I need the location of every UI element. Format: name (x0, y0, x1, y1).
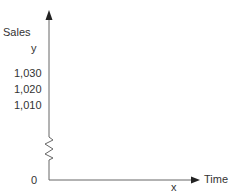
y-axis-label: Sales (3, 26, 31, 38)
origin-label: 0 (31, 174, 37, 186)
y-tick-1030: 1,030 (14, 67, 42, 79)
axis-break-icon (45, 137, 53, 160)
y-tick-1010: 1,010 (14, 99, 42, 111)
y-tick-1020: 1,020 (14, 83, 42, 95)
y-axis-symbol: y (31, 42, 37, 54)
x-axis-symbol: x (171, 181, 177, 193)
x-axis-label: Time (204, 173, 228, 185)
y-arrowhead-icon (46, 10, 53, 20)
x-arrowhead-icon (191, 177, 200, 184)
axes (0, 0, 240, 193)
